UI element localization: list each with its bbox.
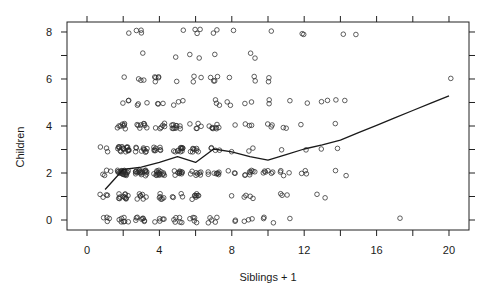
- data-point: [199, 124, 204, 129]
- data-point: [173, 173, 178, 178]
- data-point: [243, 101, 248, 106]
- data-point: [228, 103, 233, 108]
- data-point: [299, 122, 304, 127]
- y-axis-label: Children: [14, 127, 26, 168]
- data-point: [231, 28, 236, 33]
- data-point: [343, 98, 348, 103]
- data-point: [398, 216, 403, 221]
- data-point: [226, 169, 231, 174]
- data-point: [319, 147, 324, 152]
- data-point: [178, 126, 183, 131]
- data-point: [270, 170, 275, 175]
- data-point: [197, 56, 202, 61]
- data-point: [196, 121, 201, 126]
- data-point: [249, 100, 254, 105]
- data-point: [188, 52, 193, 57]
- y-axis-ticks: 02468: [46, 26, 475, 226]
- data-point: [98, 145, 103, 150]
- data-point: [285, 193, 290, 198]
- data-point: [253, 56, 258, 61]
- y-tick-label: 2: [46, 167, 52, 179]
- data-point: [192, 74, 197, 79]
- x-axis-label: Siblings + 1: [239, 271, 296, 283]
- x-tick-label: 4: [156, 244, 162, 256]
- data-point: [300, 31, 305, 36]
- x-tick-label: 8: [229, 244, 235, 256]
- data-points-layer: [98, 27, 453, 225]
- data-point: [341, 32, 346, 37]
- data-point: [333, 168, 338, 173]
- y-tick-label: 6: [46, 73, 52, 85]
- data-point: [127, 31, 132, 36]
- data-point: [98, 192, 103, 197]
- data-point: [135, 103, 140, 108]
- data-point: [199, 75, 204, 80]
- data-point: [181, 98, 186, 103]
- data-point: [215, 74, 220, 79]
- data-point: [176, 100, 181, 105]
- data-point: [279, 148, 284, 153]
- data-point: [121, 101, 126, 106]
- data-point: [288, 216, 293, 221]
- data-point: [269, 29, 274, 34]
- x-tick-label: 12: [298, 244, 310, 256]
- data-point: [284, 126, 289, 131]
- plot-canvas: 048121620 02468 Siblings + 1 Children: [0, 0, 491, 297]
- data-point: [319, 99, 324, 104]
- x-tick-label: 20: [443, 244, 455, 256]
- data-point: [198, 27, 203, 32]
- data-point: [141, 51, 146, 56]
- data-point: [248, 51, 253, 56]
- y-tick-label: 8: [46, 26, 52, 38]
- data-point: [134, 28, 139, 33]
- data-point: [354, 32, 359, 37]
- data-point: [333, 121, 338, 126]
- data-point: [188, 122, 193, 127]
- data-point: [252, 74, 257, 79]
- y-tick-label: 0: [46, 214, 52, 226]
- data-point: [101, 195, 106, 200]
- data-point: [174, 79, 179, 84]
- data-point: [304, 172, 309, 177]
- data-point: [190, 197, 195, 202]
- data-point: [173, 55, 178, 60]
- data-point: [153, 220, 158, 225]
- data-point: [117, 192, 122, 197]
- data-point: [145, 101, 150, 106]
- data-point: [171, 103, 176, 108]
- data-point: [213, 220, 218, 225]
- data-point: [208, 75, 213, 80]
- data-point: [303, 168, 308, 173]
- data-point: [315, 192, 320, 197]
- data-point: [122, 75, 127, 80]
- data-point: [139, 31, 144, 36]
- data-point: [288, 98, 293, 103]
- y-tick-label: 4: [46, 120, 52, 132]
- x-tick-label: 0: [84, 244, 90, 256]
- data-point: [325, 98, 330, 103]
- data-point: [195, 31, 200, 36]
- data-point: [251, 146, 256, 151]
- data-point: [334, 98, 339, 103]
- data-point: [206, 221, 211, 226]
- data-point: [247, 149, 252, 154]
- data-point: [344, 173, 349, 178]
- scatter-chart: 048121620 02468 Siblings + 1 Children: [0, 0, 491, 297]
- data-point: [271, 221, 276, 226]
- data-point: [191, 80, 196, 85]
- x-tick-label: 16: [370, 244, 382, 256]
- data-point: [233, 123, 238, 128]
- data-point: [287, 171, 292, 176]
- data-point: [335, 146, 340, 151]
- data-point: [227, 75, 232, 80]
- data-point: [215, 215, 220, 220]
- data-point: [449, 76, 454, 81]
- data-point: [142, 78, 147, 83]
- data-point: [101, 215, 106, 220]
- data-point: [269, 171, 274, 176]
- data-point: [305, 101, 310, 106]
- data-point: [229, 194, 234, 199]
- data-point: [323, 196, 328, 201]
- data-point: [215, 28, 220, 33]
- data-point: [153, 126, 158, 131]
